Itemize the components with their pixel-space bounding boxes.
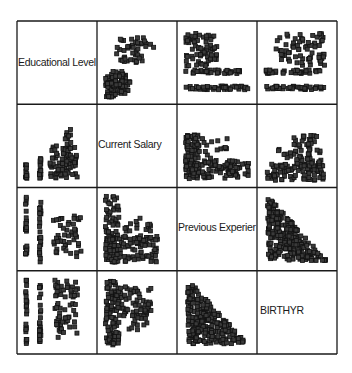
scatterplot-matrix: Educational Level Current Salary Previou…: [0, 0, 352, 373]
diag-label-birthyr: BIRTHYR: [260, 304, 305, 316]
diag-label-educational-level: Educational Level: [18, 56, 96, 68]
diag-label-current-salary: Current Salary: [98, 138, 163, 150]
scatter-points: [24, 31, 328, 346]
diag-label-previous-experience: Previous Experier: [178, 221, 257, 233]
